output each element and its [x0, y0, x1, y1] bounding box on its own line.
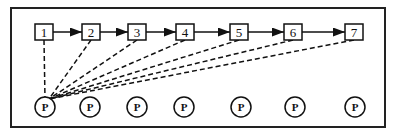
node-label: 1 — [41, 25, 48, 40]
node-box-4: 4 — [176, 24, 194, 40]
processor-label: P — [87, 101, 94, 113]
processor-label: P — [352, 101, 359, 113]
diagram-frame — [11, 8, 385, 127]
node-label: 6 — [290, 25, 297, 40]
node-label: 7 — [351, 25, 358, 40]
processor-circles: PPPPPPP — [35, 97, 365, 117]
node-label: 3 — [134, 25, 141, 40]
processor-label: P — [181, 101, 188, 113]
node-label: 5 — [236, 25, 243, 40]
dashed-link-5 — [49, 40, 239, 99]
dashed-link-2 — [49, 40, 91, 99]
processor-label: P — [134, 101, 141, 113]
processor-label: P — [42, 101, 49, 113]
processor-node-5: P — [231, 97, 251, 117]
node-box-2: 2 — [82, 24, 100, 40]
diagram-canvas: 1234567 PPPPPPP — [0, 0, 394, 137]
processor-node-2: P — [80, 97, 100, 117]
node-box-3: 3 — [128, 24, 146, 40]
node-box-5: 5 — [230, 24, 248, 40]
node-box-1: 1 — [35, 24, 53, 40]
dashed-link-1 — [44, 40, 45, 99]
processor-node-1: P — [35, 97, 55, 117]
processor-node-3: P — [127, 97, 147, 117]
processor-node-6: P — [285, 97, 305, 117]
dashed-link-7 — [49, 40, 354, 99]
dashed-links — [44, 40, 354, 99]
node-box-7: 7 — [345, 24, 363, 40]
processor-label: P — [238, 101, 245, 113]
processor-node-7: P — [345, 97, 365, 117]
node-label: 4 — [182, 25, 189, 40]
node-box-6: 6 — [284, 24, 302, 40]
node-label: 2 — [88, 25, 95, 40]
processor-label: P — [292, 101, 299, 113]
processor-node-4: P — [174, 97, 194, 117]
